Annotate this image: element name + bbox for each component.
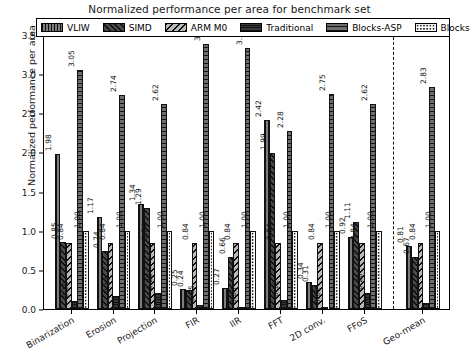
chart-legend: VLIWSIMDARM M0TraditionalBlocks-ASPBlock… [36, 18, 450, 37]
bar-value-label: 0.17 [103, 276, 112, 293]
bar-value-label: 1.00 [156, 211, 165, 228]
x-tick-mark [238, 310, 239, 314]
y-tick-label: 3.0 [2, 70, 36, 80]
bar-value-label: 2.74 [109, 75, 118, 92]
bar-value-label: 0.08 [413, 283, 422, 300]
legend-item-blocks-asp[interactable]: Blocks-ASP [326, 19, 414, 36]
bar-value-label: 2.62 [151, 84, 160, 101]
legend-label: VLIW [67, 23, 90, 33]
bar-value-label: 0.20 [355, 274, 364, 291]
bar-value-label: 0.92 [338, 217, 347, 234]
bar-blocks[interactable]: 1.00 [250, 231, 256, 309]
bar-value-label: 0.10 [61, 281, 70, 298]
bar-value-label: 0.84 [408, 224, 417, 241]
bar-value-label: 1.98 [44, 134, 53, 151]
chart-title: Normalized performance per area for benc… [0, 3, 459, 15]
bar-value-label: 0.84 [307, 224, 316, 241]
bar-value-label: 1.29 [134, 188, 143, 205]
bar-value-label: 1.00 [73, 211, 82, 228]
bar-value-label: 0.12 [271, 280, 280, 297]
bar-value-label: 1.11 [343, 202, 352, 219]
bar-value-label: 0.84 [56, 224, 65, 241]
bar-value-label: 1.00 [324, 211, 333, 228]
x-tick-mark [154, 310, 155, 314]
x-tick-mark [422, 310, 423, 314]
legend-swatch-icon [240, 23, 262, 32]
legend-label: SIMD [129, 23, 152, 33]
bar-group: 0.340.310.840.022.751.00 [302, 37, 344, 309]
bar-value-label: 1.00 [240, 211, 249, 228]
legend-item-vliw[interactable]: VLIW [41, 19, 103, 36]
bar-value-label: 2.28 [276, 111, 285, 128]
legend-label: ARM M0 [191, 23, 228, 33]
y-tick-label: 1.0 [2, 227, 36, 237]
x-tick-mark [322, 310, 323, 314]
legend-item-arm-m0[interactable]: ARM M0 [165, 19, 241, 36]
bar-value-label: 0.84 [181, 224, 190, 241]
bar-value-label: 1.99 [259, 134, 268, 151]
bar-value-label: 0.31 [301, 265, 310, 282]
bar-group: 1.980.850.840.103.051.00 [51, 37, 93, 309]
legend-label: Blocks [441, 23, 470, 33]
bar-value-label: 2.42 [254, 100, 263, 117]
bar-value-label: 1.00 [282, 211, 291, 228]
bar-value-label: 0.84 [349, 224, 358, 241]
legend-item-traditional[interactable]: Traditional [240, 19, 326, 36]
bar-value-label: 2.62 [360, 84, 369, 101]
bar-value-label: 0.03 [229, 287, 238, 304]
bar-value-label: 0.84 [98, 224, 107, 241]
legend-item-blocks[interactable]: Blocks [415, 19, 474, 36]
legend-label: Blocks-ASP [352, 23, 401, 33]
bar-value-label: 1.17 [86, 198, 95, 215]
x-tick-mark [364, 310, 365, 314]
legend-swatch-icon [165, 23, 187, 32]
y-axis-label: Normalized performance per area [26, 21, 37, 191]
bar-value-label: 1.00 [198, 211, 207, 228]
bar-value-label: 0.84 [265, 224, 274, 241]
bar-value-label: 0.20 [145, 274, 154, 291]
y-tick-label: 0.5 [2, 266, 36, 276]
legend-swatch-icon [41, 23, 63, 32]
bar-group: 0.921.110.840.202.621.00 [344, 37, 386, 309]
bar-value-label: 3.05 [67, 51, 76, 68]
y-tick-label: 3.5 [2, 31, 36, 41]
bar-blocks[interactable]: 1.00 [376, 231, 382, 309]
bar-blocks[interactable]: 1.00 [83, 231, 89, 309]
bar-blocks[interactable]: 1.00 [435, 231, 441, 309]
y-tick-label: 2.5 [2, 109, 36, 119]
bar-value-label: 2.83 [419, 68, 428, 85]
legend-swatch-icon [326, 23, 348, 32]
bar-group: 0.810.670.840.082.831.00 [402, 37, 444, 309]
bar-value-label: 0.02 [313, 288, 322, 305]
bar-arm-m0[interactable]: 0.84 [66, 243, 72, 309]
bar-group: 1.170.740.840.172.741.00 [93, 37, 135, 309]
plot-area: 1.980.850.840.103.051.001.170.740.840.17… [43, 36, 450, 310]
bar-value-label: 1.00 [115, 211, 124, 228]
bar-blocks[interactable]: 1.00 [334, 231, 340, 309]
bar-value-label: 1.00 [424, 211, 433, 228]
bar-value-label: 0.66 [218, 238, 227, 255]
bar-value-label: 0.27 [212, 268, 221, 285]
y-tick-label: 0.0 [2, 305, 36, 315]
bar-value-label: 1.00 [366, 211, 375, 228]
y-tick-label: 2.0 [2, 148, 36, 158]
bar-value-label: 0.05 [187, 285, 196, 302]
bar-value-label: 0.84 [140, 224, 149, 241]
bar-blocks[interactable]: 1.00 [125, 231, 131, 309]
legend-label: Traditional [266, 23, 313, 33]
x-tick-mark [196, 310, 197, 314]
bar-value-label: 0.24 [176, 271, 185, 288]
section-divider [393, 37, 394, 309]
legend-swatch-icon [103, 23, 125, 32]
bar-group: 0.270.660.840.033.341.00 [218, 37, 260, 309]
bar-value-label: 0.84 [223, 224, 232, 241]
x-tick-mark [113, 310, 114, 314]
legend-swatch-icon [415, 23, 437, 32]
bar-value-label: 2.75 [318, 74, 327, 91]
x-tick-mark [71, 310, 72, 314]
x-tick-mark [280, 310, 281, 314]
legend-item-simd[interactable]: SIMD [103, 19, 165, 36]
y-tick-label: 1.5 [2, 188, 36, 198]
